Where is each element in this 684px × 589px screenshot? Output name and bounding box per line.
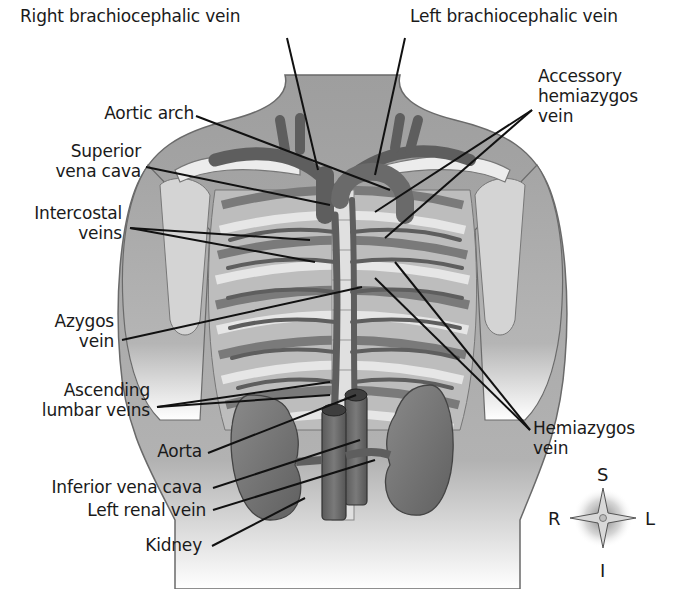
compass-left-label: L — [645, 508, 655, 529]
label-ascending-lumbar-veins-line2: lumbar veins — [42, 400, 150, 420]
label-intercostal-veins-line1: Intercostal — [34, 203, 122, 223]
label-accessory-hemiazygos-vein-line1: Accessory — [538, 66, 622, 86]
label-left-renal-vein: Left renal vein — [87, 500, 206, 520]
label-hemiazygos-vein-line1: Hemiazygos — [533, 418, 635, 438]
label-aortic-arch: Aortic arch — [104, 103, 194, 123]
anatomy-figure: Right brachiocephalic vein Left brachioc… — [0, 0, 684, 589]
label-ascending-lumbar-veins-line1: Ascending — [64, 380, 150, 400]
label-hemiazygos-vein-line2: vein — [533, 438, 568, 458]
label-intercostal-veins-line2: veins — [78, 223, 122, 243]
label-inferior-vena-cava: Inferior vena cava — [52, 477, 203, 497]
label-kidney: Kidney — [145, 535, 202, 555]
label-accessory-hemiazygos-vein-line3: vein — [538, 106, 573, 126]
compass-superior-label: S — [597, 464, 608, 485]
label-left-brachiocephalic-vein: Left brachiocephalic vein — [410, 6, 618, 26]
label-azygos-vein-line2: vein — [79, 331, 114, 351]
compass-rose — [570, 488, 636, 548]
label-superior-vena-cava-line1: Superior — [71, 141, 141, 161]
compass-inferior-label: I — [600, 560, 605, 581]
label-right-brachiocephalic-vein: Right brachiocephalic vein — [20, 6, 240, 26]
label-accessory-hemiazygos-vein-line2: hemiazygos — [538, 86, 638, 106]
label-azygos-vein-line1: Azygos — [55, 311, 114, 331]
label-aorta: Aorta — [157, 441, 202, 461]
label-superior-vena-cava-line2: vena cava — [55, 161, 141, 181]
compass-right-label: R — [548, 508, 561, 529]
